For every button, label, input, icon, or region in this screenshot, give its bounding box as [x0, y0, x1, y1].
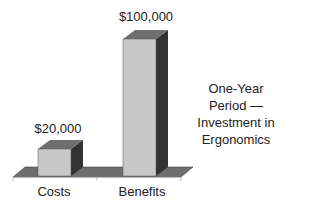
chart-title-line: One-Year	[196, 80, 276, 97]
bar-benefits	[123, 30, 168, 176]
data-label-costs: $20,000	[30, 121, 86, 136]
data-label-benefits: $100,000	[113, 9, 179, 24]
chart-title-line: Investment in	[196, 114, 276, 131]
x-tick-label-costs: Costs	[30, 184, 78, 199]
x-tick-label-benefits: Benefits	[114, 184, 170, 199]
bar-costs	[38, 140, 83, 176]
chart-title-line: Period —	[196, 97, 276, 114]
chart-title: One-Year Period — Investment in Ergonomi…	[196, 80, 276, 148]
chart-title-line: Ergonomics	[196, 131, 276, 148]
